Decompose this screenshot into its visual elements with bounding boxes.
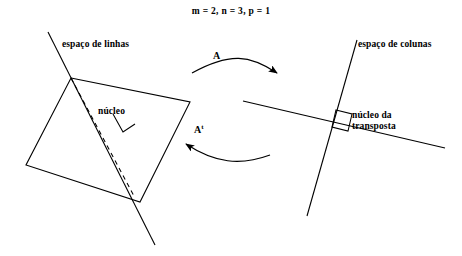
row-space-plane [26, 78, 190, 202]
row-space-label: espaço de linhas [62, 39, 129, 50]
kernel-transpose-right-angle-icon [332, 110, 352, 131]
column-space-label: espaço de colunas [358, 39, 431, 50]
figure-title: m = 2, n = 3, p = 1 [0, 6, 462, 17]
kernel-transpose-line-1: núcleo da [352, 110, 392, 120]
arrow-forward-a [192, 58, 277, 73]
kernel-transpose-line-2: transposta [352, 121, 396, 131]
map-forward-label: A [213, 50, 220, 61]
row-space-line [48, 32, 155, 245]
kernel-dashed-line [71, 78, 134, 196]
map-transpose-superscript: t [201, 123, 203, 131]
map-transpose-label: At [194, 124, 204, 135]
kernel-transpose-label: núcleo datransposta [352, 110, 396, 131]
kernel-label: núcleo [98, 106, 125, 117]
kernel-transpose-line [307, 40, 357, 216]
kernel-right-angle-icon [113, 114, 135, 132]
column-space-line [243, 101, 445, 148]
arrow-transpose-at [186, 144, 270, 161]
